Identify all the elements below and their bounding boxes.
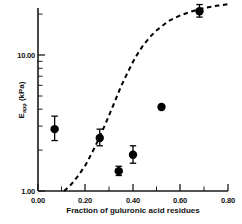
x-tick-label: 0.60 [173,196,187,205]
x-tick-label: 0.20 [78,196,92,205]
y-tick-label: 1.00 [8,187,35,196]
x-tick-label: 0.40 [126,196,140,205]
y-axis-title-units: (kPa) [17,82,26,104]
data-point-markers [50,7,203,175]
x-tick-label: 0.80 [221,196,235,205]
data-point [195,7,203,15]
x-tick-label: 0.00 [31,196,45,205]
y-tick-label: 10.00 [8,51,35,60]
data-point [115,167,123,175]
error-bars [51,5,202,176]
chart-figure: 0.00 0.20 0.40 0.60 0.80 1.00 10.00 Frac… [0,0,242,224]
y-axis-title: Eapp (kPa) [17,82,26,119]
plot-canvas [0,0,242,224]
x-axis-title: Fraction of guluronic acid residues [66,206,199,215]
data-point [157,103,165,111]
data-point [129,150,137,158]
y-axis-title-base: E [17,113,26,118]
y-axis-title-subscript: app [20,103,26,113]
y-axis-major-ticks [38,55,45,191]
data-point [96,134,104,142]
sigmoid-fit-curve [64,4,228,191]
data-point [50,125,58,133]
